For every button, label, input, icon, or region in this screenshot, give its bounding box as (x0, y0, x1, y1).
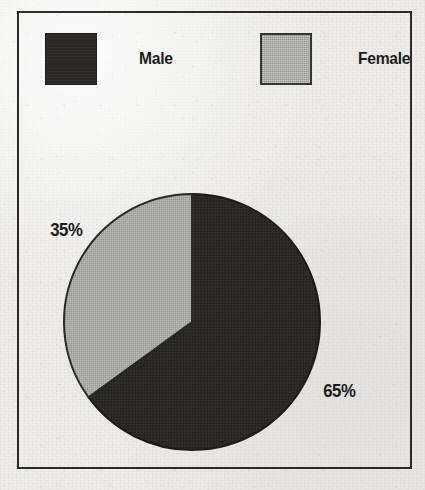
pie-chart-svg (19, 13, 414, 471)
pie-chart-area: 35% 65% (19, 13, 414, 471)
chart-page: Male Female (0, 0, 425, 490)
data-label-male-percent: 65% (323, 381, 355, 402)
chart-frame-border: Male Female (17, 11, 412, 469)
data-label-female-percent: 35% (50, 220, 82, 241)
